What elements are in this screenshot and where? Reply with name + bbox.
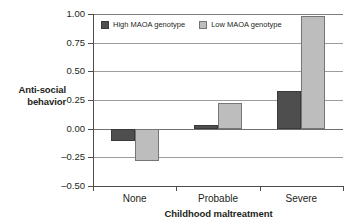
bar-probable-low — [218, 103, 242, 128]
chart-figure: Anti-social behavior 1.000.750.500.250.0… — [0, 0, 354, 223]
y-tick-label: 0.00 — [50, 124, 85, 134]
bar-severe-high — [277, 91, 301, 129]
x-tick-mark — [343, 186, 344, 191]
y-tick-label: 0.25 — [50, 95, 85, 105]
y-tick-label: –0.25 — [50, 152, 85, 162]
legend-item-low-maoa: Low MAOA genotype — [199, 20, 281, 29]
x-tick-label-severe: Severe — [261, 193, 341, 205]
y-axis-line — [93, 14, 94, 187]
y-tick-label: 1.00 — [50, 9, 85, 19]
x-tick-label-none: None — [95, 193, 175, 205]
y-axis-title-line-1: Anti-social — [2, 84, 66, 96]
y-tick-label: –0.50 — [50, 181, 85, 191]
x-axis-title: Childhood maltreatment — [93, 208, 344, 219]
plot-area — [93, 14, 343, 186]
bar-none-high — [111, 129, 135, 142]
bar-none-low — [135, 129, 159, 161]
x-tick-mark — [93, 186, 94, 191]
chart-legend: High MAOA genotypeLow MAOA genotype — [101, 20, 282, 29]
bar-probable-high — [194, 125, 218, 128]
legend-item-high-maoa: High MAOA genotype — [101, 20, 185, 29]
x-tick-mark — [260, 186, 261, 191]
legend-label: Low MAOA genotype — [211, 20, 281, 29]
y-tick-label: 0.75 — [50, 38, 85, 48]
legend-swatch-icon — [199, 21, 207, 29]
legend-label: High MAOA genotype — [113, 20, 185, 29]
legend-swatch-icon — [101, 21, 109, 29]
x-tick-label-probable: Probable — [178, 193, 258, 205]
gridline — [93, 14, 343, 15]
x-tick-mark — [176, 186, 177, 191]
bar-severe-low — [301, 16, 325, 128]
x-axis-line — [93, 186, 344, 187]
gridline — [93, 157, 343, 158]
y-tick-label: 0.50 — [50, 66, 85, 76]
